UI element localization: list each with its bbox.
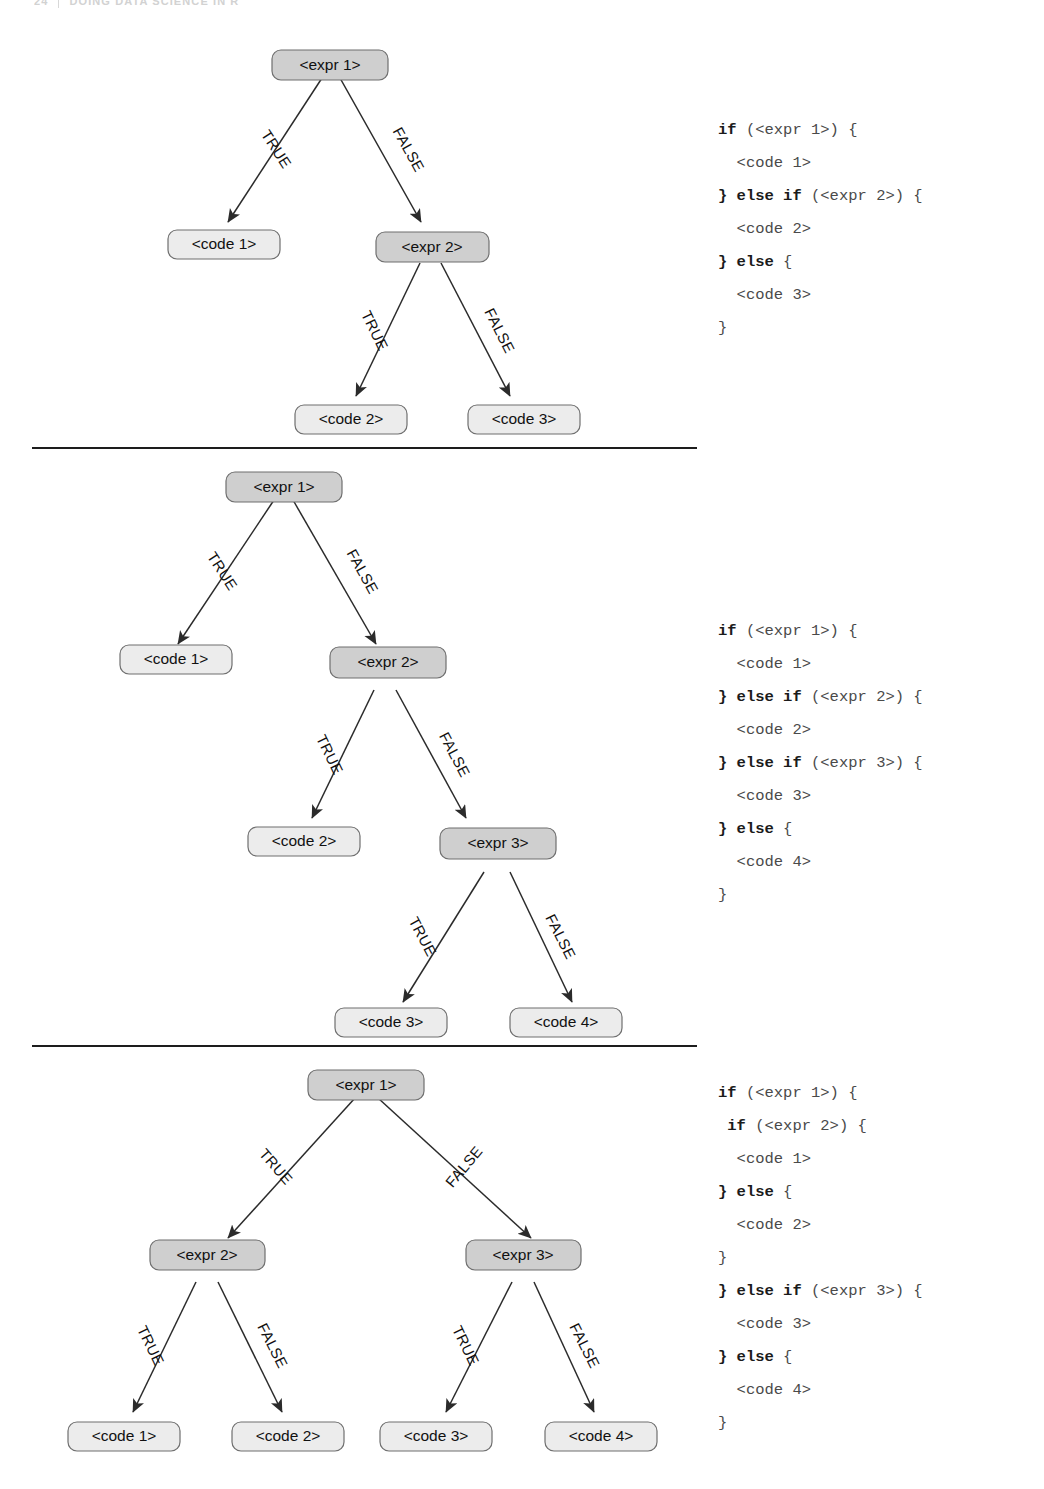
node-expr-3[interactable]: <expr 3> — [466, 1240, 581, 1270]
node-expr-2[interactable]: <expr 2> — [330, 647, 446, 678]
edge-label-false: FALSE — [442, 1143, 486, 1191]
code-keyword: } else if — [718, 688, 802, 706]
node-label: <expr 3> — [467, 834, 528, 851]
code-text: (<expr 1>) { — [737, 121, 858, 139]
code-line: } else { — [718, 1176, 923, 1209]
code-line: if (<expr 2>) { — [718, 1110, 923, 1143]
running-header: 24 DOING DATA SCIENCE IN R — [34, 0, 694, 8]
code-line: <code 3> — [718, 279, 923, 312]
code-keyword: if — [718, 1117, 746, 1135]
section-divider-2 — [32, 1045, 697, 1047]
code-line: } else if (<expr 2>) { — [718, 180, 923, 213]
node-code-1[interactable]: <code 1> — [120, 645, 232, 674]
code-line: <code 3> — [718, 1308, 923, 1341]
code-line: <code 1> — [718, 648, 923, 681]
code-line: if (<expr 1>) { — [718, 114, 923, 147]
code-line: } — [718, 879, 923, 912]
code-text: (<expr 2>) { — [802, 688, 923, 706]
node-code-2[interactable]: <code 2> — [232, 1422, 344, 1451]
code-text: <code 1> — [718, 1150, 811, 1168]
code-line: <code 2> — [718, 714, 923, 747]
code-line: } else if (<expr 3>) { — [718, 747, 923, 780]
edge-label-true-2: TRUE — [313, 732, 347, 777]
code-text: (<expr 2>) { — [746, 1117, 867, 1135]
code-line: } — [718, 1407, 923, 1440]
code-text: { — [774, 1348, 793, 1366]
code-line: } — [718, 312, 923, 345]
node-code-4[interactable]: <code 4> — [510, 1008, 622, 1037]
code-line: if (<expr 1>) { — [718, 615, 923, 648]
node-code-1[interactable]: <code 1> — [68, 1422, 180, 1451]
node-code-3[interactable]: <code 3> — [468, 405, 580, 434]
edge-label-true-3: TRUE — [449, 1323, 483, 1368]
code-line: } else { — [718, 813, 923, 846]
code-text: (<expr 1>) { — [737, 622, 858, 640]
code-text: (<expr 2>) { — [802, 187, 923, 205]
node-label: <code 1> — [144, 650, 209, 667]
edge-label-true: TRUE — [258, 127, 295, 172]
code-text: (<expr 3>) { — [802, 1282, 923, 1300]
book-title: DOING DATA SCIENCE IN R — [69, 0, 239, 7]
code-line: <code 4> — [718, 846, 923, 879]
edge-label-true-3: TRUE — [405, 914, 440, 959]
code-keyword: } else if — [718, 754, 802, 772]
header-divider — [58, 0, 59, 8]
code-keyword: } else — [718, 820, 774, 838]
code-line: <code 2> — [718, 1209, 923, 1242]
node-code-3[interactable]: <code 3> — [335, 1008, 447, 1037]
code-line: } else { — [718, 246, 923, 279]
figure-2-diagram: TRUE FALSE TRUE FALSE TRUE FALSE <expr 1… — [0, 462, 700, 1037]
node-label: <code 4> — [534, 1013, 599, 1030]
node-code-1[interactable]: <code 1> — [168, 230, 280, 259]
node-code-2[interactable]: <code 2> — [295, 405, 407, 434]
node-expr-2[interactable]: <expr 2> — [150, 1240, 265, 1270]
code-line: <code 3> — [718, 780, 923, 813]
node-expr-2[interactable]: <expr 2> — [376, 232, 489, 262]
edge-label-false-3: FALSE — [542, 911, 579, 962]
code-text: <code 3> — [718, 286, 811, 304]
node-expr-1[interactable]: <expr 1> — [226, 472, 342, 502]
code-text: <code 2> — [718, 220, 811, 238]
node-label: <code 2> — [319, 410, 384, 427]
node-code-3[interactable]: <code 3> — [380, 1422, 492, 1451]
code-line: } else { — [718, 1341, 923, 1374]
code-text: { — [774, 1183, 793, 1201]
node-expr-1[interactable]: <expr 1> — [308, 1070, 424, 1100]
node-label: <code 3> — [492, 410, 557, 427]
code-keyword: if — [718, 622, 737, 640]
code-line: <code 2> — [718, 213, 923, 246]
figure-3-diagram: TRUE FALSE TRUE FALSE TRUE FALSE <expr 1… — [0, 1060, 700, 1480]
node-label: <expr 3> — [492, 1246, 553, 1263]
node-expr-3[interactable]: <expr 3> — [440, 828, 556, 859]
node-code-2[interactable]: <code 2> — [248, 827, 360, 856]
code-text: { — [774, 820, 793, 838]
figure-1-diagram: TRUE FALSE TRUE FALSE <expr 1> <code 1> … — [0, 40, 700, 440]
page: 24 DOING DATA SCIENCE IN R TRUE FALSE TR… — [0, 0, 1044, 1489]
node-label: <expr 2> — [401, 238, 462, 255]
node-label: <code 1> — [192, 235, 257, 252]
node-code-4[interactable]: <code 4> — [545, 1422, 657, 1451]
code-text: } — [718, 1414, 727, 1432]
code-line: <code 1> — [718, 147, 923, 180]
code-text: <code 1> — [718, 655, 811, 673]
code-keyword: } else — [718, 253, 774, 271]
edge-label-true-2: TRUE — [134, 1323, 168, 1368]
code-keyword: if — [718, 121, 737, 139]
edge-label-false: FALSE — [390, 124, 428, 174]
code-listing-2: if (<expr 1>) { <code 1>} else if (<expr… — [718, 615, 923, 912]
edge-label-false: FALSE — [344, 546, 382, 596]
code-text: <code 3> — [718, 787, 811, 805]
node-label: <expr 1> — [335, 1076, 396, 1093]
edge-label-true: TRUE — [256, 1145, 296, 1188]
page-number: 24 — [34, 0, 48, 7]
code-text: <code 3> — [718, 1315, 811, 1333]
node-expr-1[interactable]: <expr 1> — [272, 50, 388, 80]
code-line: } else if (<expr 3>) { — [718, 1275, 923, 1308]
node-label: <code 2> — [256, 1427, 321, 1444]
code-text: <code 1> — [718, 154, 811, 172]
code-line: <code 1> — [718, 1143, 923, 1176]
code-line: if (<expr 1>) { — [718, 1077, 923, 1110]
code-keyword: } else — [718, 1183, 774, 1201]
node-label: <code 4> — [569, 1427, 634, 1444]
node-label: <expr 2> — [176, 1246, 237, 1263]
